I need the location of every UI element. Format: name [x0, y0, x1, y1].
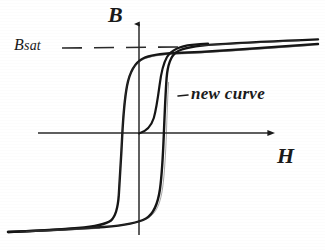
hysteresis-descending-branch-shadow [119, 46, 310, 197]
bsat-label: Bsat [14, 37, 41, 53]
hysteresis-diagram-svg [0, 0, 325, 250]
new-curve-label: new curve [191, 85, 265, 102]
bsat-label-subscript: sat [24, 38, 41, 53]
hysteresis-ascending-branch-shadow [20, 82, 169, 231]
h-axis-label: H [277, 145, 294, 167]
figure-canvas: Bsat B H new curve [0, 0, 325, 250]
b-axis-label: B [108, 4, 123, 26]
bsat-label-symbol: B [14, 36, 24, 53]
bsat-dashed-line [62, 47, 178, 48]
new-curve-pointer-dash [178, 95, 188, 96]
